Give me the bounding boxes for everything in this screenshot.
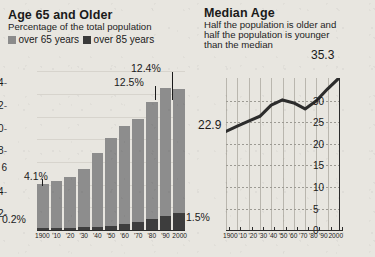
bar-1980 xyxy=(146,60,158,230)
x-label-1920: '20 xyxy=(248,232,258,239)
x-label-1930: '30 xyxy=(77,232,91,239)
bar-1930 xyxy=(78,60,90,230)
callout-4-1-percent: 4.1% xyxy=(24,170,48,182)
x-label-1990: '90 xyxy=(318,232,328,239)
legend-item-over-65: over 65 years xyxy=(8,34,79,45)
callout-leader-4-1 xyxy=(42,179,43,186)
x-label-1990: '90 xyxy=(159,232,173,239)
x-label-1980: '80 xyxy=(308,232,318,239)
y-tick-10: 10 xyxy=(313,181,324,192)
callout-median-start: 22.9 xyxy=(198,118,221,132)
right-panel-subtitle-line3: than the median xyxy=(204,40,273,51)
legend-item-over-85: over 85 years xyxy=(83,34,154,45)
callout-12-4-percent: 12.4% xyxy=(131,62,161,74)
left-panel-legend: over 65 years over 85 years xyxy=(8,34,154,45)
bar-1990 xyxy=(160,60,172,230)
legend-label-over-65: over 65 years xyxy=(19,34,80,45)
y-tick-14: 14- xyxy=(0,77,7,88)
y-tick-8: 8- xyxy=(0,145,7,156)
x-label-1900: 1900 xyxy=(223,232,238,239)
x-label-2000: 2000 xyxy=(328,232,343,239)
right-panel-title: Median Age xyxy=(204,6,275,20)
callout-0-2-percent: 0.2% xyxy=(2,213,26,225)
line-chart-x-axis xyxy=(226,230,343,231)
age-65-and-older-panel: Age 65 and Older Percentage of the total… xyxy=(0,0,196,257)
x-label-1960: '60 xyxy=(118,232,132,239)
callout-leader-12-5 xyxy=(155,86,156,100)
bar-chart-plot-area xyxy=(37,60,185,230)
median-age-panel: Median Age Half the population is older … xyxy=(196,0,375,257)
x-label-1950: '50 xyxy=(278,232,288,239)
bar-chart-x-labels: 1900 '10 '20 '30 '40 '50 '60 '70 '80 '90… xyxy=(35,232,187,239)
bar-1940 xyxy=(92,60,104,230)
y-tick-10: 10- xyxy=(0,122,7,133)
bar-1900 xyxy=(37,60,49,230)
x-label-2000: 2000 xyxy=(172,232,187,239)
bar-1920 xyxy=(64,60,76,230)
x-label-1940: '40 xyxy=(91,232,105,239)
y-tick-6: 6 xyxy=(1,162,7,173)
bar-chart-x-axis xyxy=(37,230,185,231)
legend-swatch-over-85-icon xyxy=(83,36,91,44)
bar-2000 xyxy=(173,60,185,230)
x-label-1940: '40 xyxy=(268,232,278,239)
y-tick-15: 15 xyxy=(313,160,324,171)
x-label-1930: '30 xyxy=(258,232,268,239)
y-tick-5: 5 xyxy=(313,203,319,214)
y-tick-25: 25 xyxy=(313,117,324,128)
x-label-1980: '80 xyxy=(145,232,159,239)
y-tick-4: 4- xyxy=(0,185,7,196)
x-label-1970: '70 xyxy=(131,232,145,239)
left-panel-title: Age 65 and Older xyxy=(8,8,112,22)
x-label-1910: '10 xyxy=(50,232,64,239)
x-label-1920: '20 xyxy=(63,232,77,239)
callout-median-end: 35.3 xyxy=(311,48,334,62)
x-label-1950: '50 xyxy=(104,232,118,239)
x-label-1960: '60 xyxy=(288,232,298,239)
y-tick-20: 20 xyxy=(313,138,324,149)
x-label-1910: '10 xyxy=(238,232,248,239)
y-tick-30: 30 xyxy=(313,95,324,106)
line-chart-x-labels: 1900 '10 '20 '30 '40 '50 '60 '70 '80 '90… xyxy=(223,232,343,239)
x-label-1970: '70 xyxy=(298,232,308,239)
x-label-1900: 1900 xyxy=(35,232,50,239)
y-tick-12: 12- xyxy=(0,100,7,111)
line-chart-y-axis xyxy=(339,78,340,230)
bar-1910 xyxy=(51,60,63,230)
left-panel-subtitle: Percentage of the total population xyxy=(8,22,151,33)
callout-12-5-percent: 12.5% xyxy=(114,76,144,88)
callout-leader-12-4 xyxy=(172,72,173,100)
legend-label-over-85: over 85 years xyxy=(94,34,155,45)
legend-swatch-over-65-icon xyxy=(8,36,16,44)
bar-series-group xyxy=(37,60,185,230)
